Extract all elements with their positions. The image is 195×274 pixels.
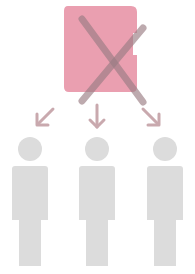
- person-icon: [79, 137, 115, 266]
- diagram: [0, 0, 195, 274]
- arrow-down-right-icon: [143, 109, 159, 125]
- arrow-down-left-icon: [37, 109, 53, 125]
- person-icon: [147, 137, 183, 266]
- arrow-down-icon: [90, 105, 104, 127]
- person-icon: [12, 137, 48, 266]
